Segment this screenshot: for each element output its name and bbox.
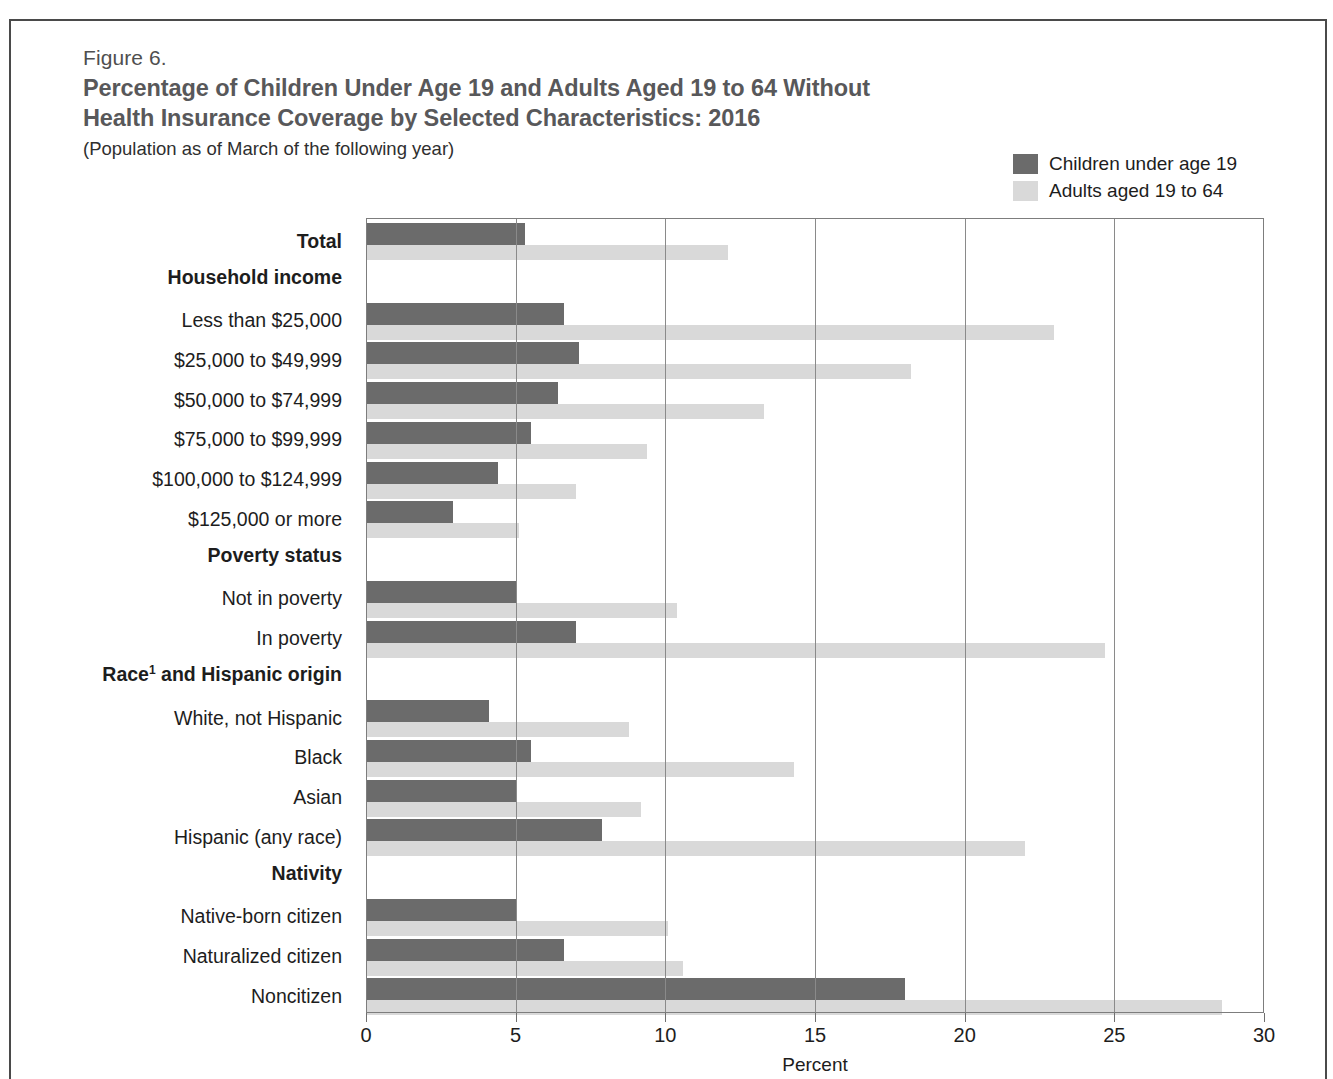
gridline	[965, 218, 966, 1013]
bar-children	[366, 462, 498, 484]
axis-tick-label: 30	[1253, 1025, 1275, 1045]
bar-adults	[366, 961, 683, 976]
category-label: Native-born citizen	[181, 907, 342, 927]
bar-adults	[366, 802, 641, 817]
category-label: $125,000 or more	[188, 510, 342, 530]
bar-children	[366, 939, 564, 961]
axis-tick	[1114, 1013, 1115, 1022]
axis-tick	[665, 1013, 666, 1022]
category-group-header: Nativity	[272, 864, 342, 884]
axis-tick	[965, 1013, 966, 1022]
bar-adults	[366, 921, 668, 936]
category-label: Black	[294, 748, 342, 768]
axis-tick-label: 15	[804, 1025, 826, 1045]
bar-adults	[366, 245, 728, 260]
bar-adults	[366, 364, 911, 379]
bar-adults	[366, 444, 647, 459]
category-label: In poverty	[256, 629, 342, 649]
axis-tick	[815, 1013, 816, 1022]
axis-tick-label: 0	[360, 1025, 371, 1045]
bar-children	[366, 581, 516, 603]
value-axis-title: Percent	[366, 1055, 1264, 1074]
category-label: Not in poverty	[222, 589, 342, 609]
bar-children	[366, 740, 531, 762]
category-group-header: Household income	[168, 268, 342, 288]
figure-title-line-1: Percentage of Children Under Age 19 and …	[83, 73, 1233, 103]
category-label: $100,000 to $124,999	[152, 470, 342, 490]
bar-children	[366, 621, 576, 643]
page-title: Percentage of Children Under Age 19 and …	[83, 73, 1233, 133]
bar-adults	[366, 325, 1054, 340]
gridline	[1114, 218, 1115, 1013]
category-label: White, not Hispanic	[174, 709, 342, 729]
axis-tick	[366, 1013, 367, 1022]
category-label: Asian	[293, 788, 342, 808]
chart-plot-area	[366, 218, 1264, 1013]
legend-item-label: Adults aged 19 to 64	[1049, 181, 1223, 200]
bar-adults	[366, 484, 576, 499]
gridline	[516, 218, 517, 1013]
bar-children	[366, 223, 525, 245]
axis-tick-label: 5	[510, 1025, 521, 1045]
bar-children	[366, 978, 905, 1000]
bar-children	[366, 342, 579, 364]
category-label: Less than $25,000	[182, 311, 342, 331]
legend-swatch-icon	[1013, 154, 1038, 174]
axis-tick-label: 10	[654, 1025, 676, 1045]
category-label: $75,000 to $99,999	[174, 430, 342, 450]
bar-children	[366, 700, 489, 722]
bar-adults	[366, 603, 677, 618]
axis-tick	[516, 1013, 517, 1022]
legend-item-label: Children under age 19	[1049, 154, 1237, 173]
bar-adults	[366, 643, 1105, 658]
gridline	[815, 218, 816, 1013]
bar-adults	[366, 841, 1025, 856]
category-label: Noncitizen	[251, 987, 342, 1007]
bar-children	[366, 303, 564, 325]
legend-item: Children under age 19	[1013, 150, 1313, 177]
category-axis-labels: TotalHousehold incomeLess than $25,000$2…	[41, 218, 354, 1013]
footnote-marker: 1	[149, 663, 156, 677]
legend-item: Adults aged 19 to 64	[1013, 177, 1313, 204]
category-group-header: Poverty status	[208, 546, 342, 566]
chart-legend: Children under age 19Adults aged 19 to 6…	[1013, 150, 1313, 204]
gridline	[665, 218, 666, 1013]
legend-swatch-icon	[1013, 181, 1038, 201]
axis-tick-label: 25	[1103, 1025, 1125, 1045]
axis-tick-label: 20	[954, 1025, 976, 1045]
figure-title-line-2: Health Insurance Coverage by Selected Ch…	[83, 103, 1233, 133]
bar-children	[366, 422, 531, 444]
category-group-header: Race1 and Hispanic origin	[102, 665, 342, 685]
figure-number: Figure 6.	[83, 45, 1233, 70]
bar-children	[366, 819, 602, 841]
figure-frame: Figure 6. Percentage of Children Under A…	[9, 19, 1327, 1079]
category-label: Hispanic (any race)	[174, 828, 342, 848]
bar-children	[366, 501, 453, 523]
bar-adults	[366, 762, 794, 777]
figure-header: Figure 6. Percentage of Children Under A…	[83, 45, 1233, 161]
category-label: Total	[297, 232, 342, 252]
bar-children	[366, 382, 558, 404]
category-label: $50,000 to $74,999	[174, 391, 342, 411]
category-label: Naturalized citizen	[183, 947, 342, 967]
bar-adults	[366, 404, 764, 419]
bar-children	[366, 899, 516, 921]
bar-adults	[366, 722, 629, 737]
bar-adults	[366, 523, 519, 538]
bar-children	[366, 780, 516, 802]
category-label: $25,000 to $49,999	[174, 351, 342, 371]
axis-tick	[1264, 1013, 1265, 1022]
